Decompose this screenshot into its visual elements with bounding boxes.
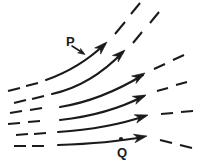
dash-right-segment	[131, 3, 140, 14]
dash-left-segment	[30, 108, 42, 110]
streamline-figure: P Q	[0, 0, 219, 165]
dash-left-segment	[8, 88, 20, 91]
streamline-4-group	[8, 82, 187, 124]
dash-left-segment	[28, 121, 40, 122]
dash-left-segment	[14, 100, 26, 103]
dash-left-segment	[16, 134, 28, 135]
dash-left-segment	[8, 123, 20, 124]
streamline-path	[58, 137, 143, 145]
streamline-2-group	[14, 12, 159, 103]
dash-left-segment	[32, 96, 44, 99]
streamline-path	[60, 96, 144, 120]
dash-left-segment	[34, 133, 46, 134]
flow-field-canvas	[0, 0, 219, 165]
dash-left-segment	[26, 83, 38, 86]
dash-right-segment	[180, 145, 192, 148]
streamline-5-group	[16, 111, 193, 135]
dash-right-segment	[173, 55, 184, 60]
label-q: Q	[117, 146, 127, 159]
dash-right-segment	[161, 113, 173, 114]
dash-right-segment	[150, 12, 159, 23]
dash-right-segment	[157, 88, 168, 91]
dash-right-segment	[181, 111, 193, 112]
dash-left-segment	[10, 111, 22, 113]
dash-right-segment	[176, 82, 187, 85]
arrow-head-icon	[134, 111, 149, 123]
arrow-head-icon	[132, 91, 147, 104]
dash-right-segment	[154, 64, 165, 69]
dash-right-segment	[115, 22, 125, 34]
dash-right-segment	[133, 32, 142, 43]
point-marker-q	[119, 137, 123, 141]
label-p: P	[66, 35, 75, 48]
dash-right-segment	[160, 140, 172, 143]
